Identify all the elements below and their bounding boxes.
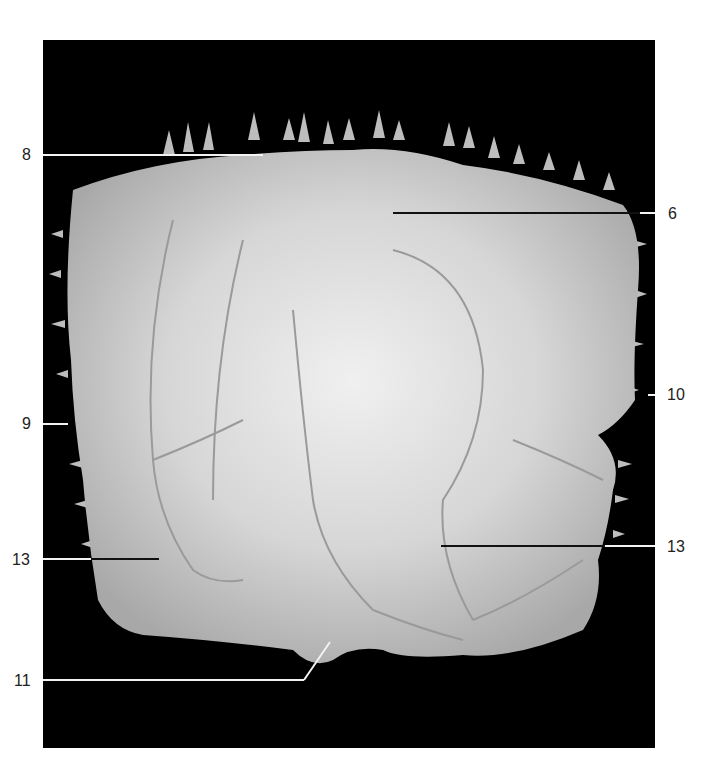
label-9: 9: [22, 416, 31, 432]
leader-line-6-outer: [640, 212, 655, 214]
label-6: 6: [668, 206, 677, 222]
label-10: 10: [667, 387, 685, 403]
bone-photograph: [43, 40, 655, 748]
leader-line-11-diagonal: [300, 640, 335, 682]
leader-line-11-horizontal: [43, 679, 304, 681]
label-13-right: 13: [667, 539, 685, 555]
leader-line-8: [43, 154, 263, 156]
leader-line-13-right-inner: [441, 545, 605, 547]
label-8: 8: [22, 147, 31, 163]
leader-line-6-inner: [393, 212, 640, 214]
leader-line-10: [648, 394, 655, 396]
leader-line-13-left-outer: [43, 558, 91, 560]
leader-line-13-right-outer: [605, 545, 655, 547]
label-11: 11: [14, 673, 31, 689]
parietal-bone-illustration: [43, 40, 655, 748]
leader-line-9: [43, 423, 68, 425]
bone-body: [67, 149, 639, 663]
leader-line-13-left-inner: [91, 558, 159, 560]
label-13-left: 13: [12, 552, 30, 568]
